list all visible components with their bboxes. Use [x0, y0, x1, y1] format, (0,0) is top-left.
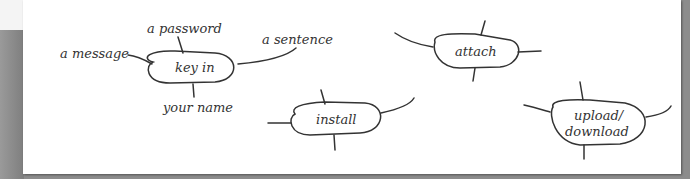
- node-attach: attach: [455, 44, 497, 59]
- branch-a-sentence: a sentence: [262, 32, 333, 47]
- node-key-in: key in: [175, 60, 215, 75]
- branch-a-message: a message: [60, 46, 129, 61]
- node-install: install: [316, 112, 357, 127]
- node-download: download: [565, 124, 629, 139]
- branch-your-name: your name: [162, 100, 233, 115]
- mind-map-diagram: key in a message a password a sentence y…: [0, 0, 690, 179]
- node-upload: upload/: [574, 108, 625, 123]
- branch-a-password: a password: [147, 21, 222, 36]
